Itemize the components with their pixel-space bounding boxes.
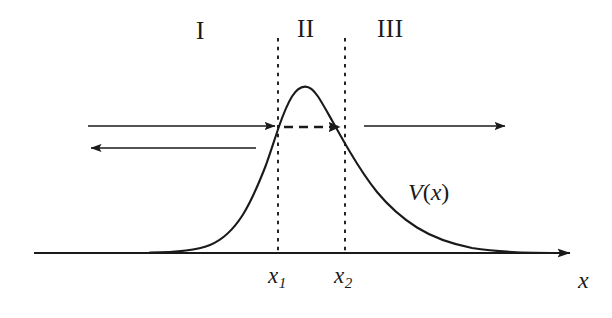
boundary-label-x2-base: x <box>334 263 344 288</box>
potential-barrier-figure: I II III x1 x2 V(x) x <box>0 0 612 318</box>
potential-curve-label-base: V <box>408 179 423 205</box>
boundary-label-x1-subscript: 1 <box>279 275 287 291</box>
potential-curve <box>150 87 552 253</box>
figure-canvas <box>0 0 612 318</box>
potential-curve-label: V(x) <box>408 180 449 204</box>
potential-curve-label-arg: x <box>431 179 442 205</box>
boundary-label-x2: x2 <box>334 264 352 291</box>
region-label-II: II <box>297 16 315 41</box>
potential-curve-label-close-paren: ) <box>441 179 449 205</box>
boundary-label-x2-subscript: 2 <box>345 275 353 291</box>
boundary-label-x1-base: x <box>268 263 278 288</box>
potential-curve-label-open-paren: ( <box>423 179 431 205</box>
region-label-III: III <box>377 16 403 41</box>
boundary-label-x1: x1 <box>268 264 286 291</box>
x-axis-label: x <box>578 268 589 292</box>
region-label-I: I <box>196 18 205 43</box>
